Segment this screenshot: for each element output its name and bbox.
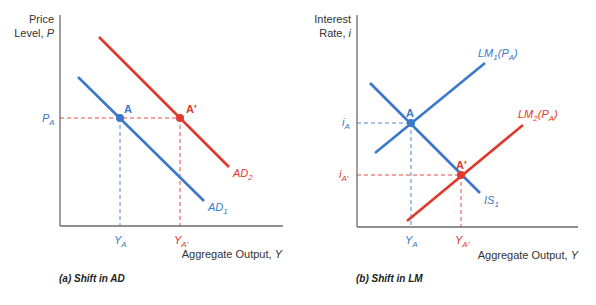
lm1-label: LM1(PA)	[478, 47, 518, 62]
caption-b: (b) Shift in LM	[356, 273, 423, 284]
point-a-prime-label: A′	[456, 159, 467, 171]
point-a-prime	[176, 114, 184, 122]
y-axis-label-line1: Price	[29, 13, 54, 25]
point-a-prime-label: A′	[186, 103, 197, 115]
pa-tick-label: PA	[42, 112, 55, 127]
y-axis-label-line1: Interest	[314, 13, 351, 25]
x-axis-label: Aggregate Output, Y	[478, 249, 579, 261]
is1-label: IS1	[484, 194, 499, 209]
y-axis-label-line2: Rate, i	[319, 27, 351, 39]
point-a-label: A	[124, 103, 132, 115]
x-axis-label: Aggregate Output, Y	[182, 248, 283, 260]
ya-tick-label: YA	[405, 234, 418, 249]
ad1-label: AD1	[207, 201, 228, 216]
lm2-curve	[407, 125, 523, 221]
ia-tick-label: iA	[342, 116, 350, 131]
ya-tick-label: YA	[114, 234, 127, 249]
lm2-label: LM2(PA)	[518, 108, 558, 123]
lm1-curve	[375, 63, 485, 153]
ia-prime-tick-label: iA′	[339, 168, 349, 183]
panel-shift-in-ad: Price Level, P A A′ PA YA YA′ AD1 AD2 Ag…	[14, 13, 283, 284]
caption-a: (a) Shift in AD	[59, 273, 125, 284]
point-a-prime	[457, 171, 465, 179]
y-axis-label-line2: Level, P	[14, 27, 54, 39]
ad2-curve	[99, 37, 229, 167]
point-a	[407, 119, 415, 127]
ya-prime-tick-label: YA′	[174, 234, 189, 249]
ya-prime-tick-label: YA′	[455, 234, 470, 249]
panel-shift-in-lm: Interest Rate, i A A′ iA iA′ YA YA′ IS1 …	[314, 13, 578, 284]
ad2-label: AD2	[232, 167, 253, 182]
point-a	[116, 114, 124, 122]
ad1-curve	[78, 77, 204, 201]
diagram-canvas: Price Level, P A A′ PA YA YA′ AD1 AD2 Ag…	[0, 0, 596, 305]
point-a-label: A	[406, 107, 414, 119]
